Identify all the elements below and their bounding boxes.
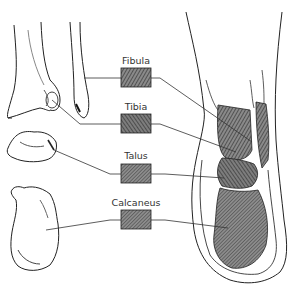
fibula-swatch — [121, 68, 151, 87]
calcaneus-drawing — [11, 187, 59, 271]
tibia-swatch — [121, 114, 151, 133]
fibula-drawing — [70, 22, 89, 118]
calcaneus-label: Calcaneus — [106, 197, 166, 208]
talus-drawing — [7, 132, 56, 162]
talus-swatch — [121, 164, 151, 183]
tibia-label: Tibia — [106, 101, 166, 112]
tibia-lateral-drawing — [7, 22, 60, 118]
talus-label: Talus — [106, 150, 166, 161]
calcaneus-swatch — [121, 210, 151, 229]
ankle-bone-diagram: Fibula Tibia Talus Calcaneus — [0, 0, 289, 288]
posterior-ankle-drawing — [186, 12, 287, 283]
diagram-drawing — [0, 0, 289, 288]
talus-leader-right — [151, 174, 224, 178]
fibula-label: Fibula — [106, 55, 166, 66]
